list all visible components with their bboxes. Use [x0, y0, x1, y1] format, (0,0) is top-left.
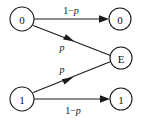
edge-label-1-to-1: 1−p: [65, 105, 81, 116]
edge-label-1-to-1-prefix: 1−: [65, 105, 76, 116]
node-input-0-label: 0: [19, 14, 25, 26]
node-output-0-label: 0: [117, 14, 123, 26]
edge-1-to-e: [33, 62, 111, 93]
edge-1-to-e-arrowhead: [62, 77, 74, 85]
node-output-e-label: E: [118, 53, 125, 65]
edge-label-0-to-e: p: [59, 42, 65, 53]
edge-label-1-to-e: p: [59, 64, 65, 75]
edge-1-to-1: [34, 95, 110, 103]
edge-label-0-to-0-symbol: p: [73, 5, 79, 16]
edge-label-1-to-e-symbol: p: [59, 64, 65, 75]
edge-0-to-0: [34, 15, 109, 23]
node-input-0[interactable]: 0: [10, 7, 34, 31]
node-output-1[interactable]: 1: [110, 88, 132, 110]
edge-1-to-1-arrowhead: [100, 95, 110, 103]
edge-1-to-e-line: [33, 62, 111, 93]
edge-0-to-e: [33, 26, 110, 56]
node-output-1-label: 1: [118, 94, 124, 106]
node-input-1[interactable]: 1: [10, 87, 34, 111]
node-output-0[interactable]: 0: [109, 8, 131, 30]
node-output-e[interactable]: E: [110, 47, 132, 69]
edge-0-to-0-arrowhead: [99, 15, 109, 23]
edge-label-0-to-0-prefix: 1−: [63, 5, 74, 16]
edge-label-1-to-1-symbol: p: [75, 105, 81, 116]
diagram-canvas: 0 1 0 E 1 1−p p p 1−p: [0, 0, 144, 121]
edge-0-to-e-arrowhead: [63, 34, 75, 41]
node-input-1-label: 1: [19, 94, 25, 106]
edge-label-0-to-0: 1−p: [63, 5, 79, 16]
edge-label-0-to-e-symbol: p: [59, 42, 65, 53]
channel-diagram-figure: 0 1 0 E 1 1−p p p 1−p: [0, 0, 144, 121]
